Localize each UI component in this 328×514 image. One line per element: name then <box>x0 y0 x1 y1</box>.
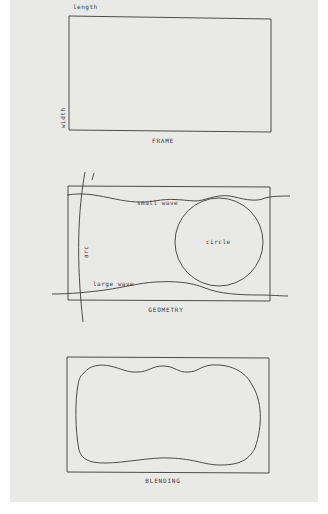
arc-label: arc <box>82 246 89 258</box>
blended-shape <box>76 365 260 465</box>
large-wave-curve <box>52 282 288 296</box>
line-tick <box>92 173 94 180</box>
small-wave-curve <box>67 194 290 202</box>
large-wave-label: large wave <box>93 280 134 287</box>
circle-label: circle <box>206 238 231 245</box>
blending-caption: BLENDING <box>145 477 180 484</box>
geometry-caption: GEOMETRY <box>148 306 183 313</box>
diagram-canvas <box>0 0 328 514</box>
width-label: width <box>59 107 66 128</box>
length-label: length <box>73 3 98 10</box>
frame-caption: FRAME <box>152 137 174 144</box>
blending-rectangle <box>67 357 269 473</box>
frame-rectangle <box>69 16 271 132</box>
small-wave-label: small wave <box>137 199 178 206</box>
